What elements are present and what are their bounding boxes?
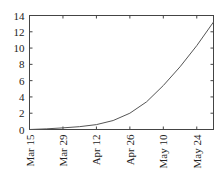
- y-tick-label: 2: [19, 107, 25, 119]
- y-tick-label: 12: [14, 26, 25, 38]
- data-line: [30, 22, 214, 129]
- y-axis: 02468101214: [14, 10, 214, 136]
- x-tick-label: Apr 12: [90, 135, 102, 166]
- line-chart: 02468101214 Mar 15Mar 29Apr 12Apr 26May …: [0, 0, 223, 176]
- y-tick-label: 0: [19, 124, 25, 136]
- x-tick-label: Mar 15: [24, 134, 36, 167]
- x-tick-label: May 10: [157, 134, 169, 168]
- y-tick-label: 8: [19, 58, 25, 70]
- y-tick-label: 14: [14, 10, 26, 22]
- x-tick-label: Apr 26: [124, 134, 136, 165]
- x-axis: Mar 15Mar 29Apr 12Apr 26May 10May 24: [24, 16, 203, 169]
- y-tick-label: 6: [19, 75, 25, 87]
- y-tick-label: 4: [19, 91, 25, 103]
- x-tick-label: Mar 29: [57, 134, 69, 167]
- plot-frame: [30, 16, 214, 130]
- y-tick-label: 10: [14, 42, 26, 54]
- x-tick-label: May 24: [191, 134, 203, 168]
